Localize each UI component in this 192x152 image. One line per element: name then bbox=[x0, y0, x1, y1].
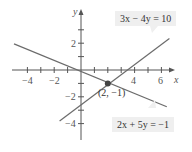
intersection-point bbox=[105, 80, 111, 86]
y-tick-label: 2 bbox=[71, 38, 76, 49]
y-tick-label: −4 bbox=[65, 118, 76, 129]
x-tick-label: −2 bbox=[49, 75, 60, 86]
x-axis-arrow-icon bbox=[169, 68, 175, 73]
eq1-callout-pointer bbox=[150, 26, 158, 33]
x-tick-label: 4 bbox=[131, 75, 136, 86]
x-tick-label: −4 bbox=[22, 75, 33, 86]
y-axis-label: y bbox=[72, 6, 78, 17]
y-axis-arrow-icon bbox=[79, 9, 84, 15]
y-tick-label: −2 bbox=[65, 91, 76, 102]
intersection-label: (2, −1) bbox=[98, 87, 125, 98]
x-axis-label: x bbox=[173, 74, 179, 85]
x-tick-label: 6 bbox=[158, 75, 163, 86]
line-3x-4y-10 bbox=[60, 39, 170, 121]
equation-label-1: 3x − 4y = 10 bbox=[115, 11, 176, 26]
equation-label-2: 2x + 5y = −1 bbox=[112, 117, 174, 132]
